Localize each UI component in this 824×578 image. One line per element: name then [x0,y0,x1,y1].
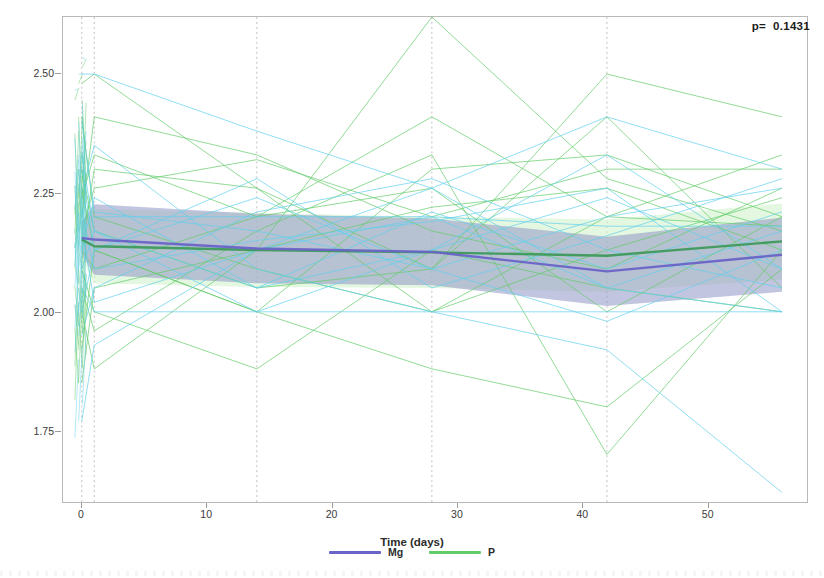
y-tick-mark-2 [55,193,61,194]
y-tick-label-2: 2.25 [26,187,54,199]
chart-legend: Mg P [0,546,824,558]
plot-canvas [63,17,807,502]
x-tick-label-5: 50 [702,508,714,520]
legend-swatch-mg [329,551,381,554]
plot-area [62,16,808,503]
x-tick-label-3: 30 [451,508,463,520]
x-tick-mark-0 [81,503,82,508]
legend-swatch-p [429,551,481,554]
x-tick-label-0: 0 [78,508,84,520]
baseline-segment-16-0 [75,359,79,437]
y-tick-mark-1 [55,312,61,313]
y-tick-label-3: 2.50 [26,67,54,79]
p-value-annotation: p= 0.1431 [752,20,810,32]
legend-item-mg: Mg [329,546,403,558]
scan-artifact [0,571,824,576]
legend-label-mg: Mg [388,546,403,558]
x-tick-label-2: 20 [326,508,338,520]
baseline-segment-14-2 [82,57,86,59]
x-tick-mark-2 [332,503,333,508]
legend-item-p: P [429,546,495,558]
y-tick-label-1: 2.00 [26,306,54,318]
baseline-segment-0-2 [82,60,86,67]
x-tick-mark-3 [457,503,458,508]
y-tick-label-0: 1.75 [26,425,54,437]
x-tick-label-4: 40 [576,508,588,520]
x-tick-mark-4 [582,503,583,508]
legend-label-p: P [488,546,495,558]
x-tick-label-1: 10 [200,508,212,520]
x-tick-mark-5 [708,503,709,508]
y-tick-mark-3 [55,73,61,74]
y-axis-ticks: 1.752.002.252.50 [0,0,54,578]
x-tick-mark-1 [206,503,207,508]
y-tick-mark-0 [55,431,61,432]
chart-figure: Serum magnesium levels 1.752.002.252.50 … [0,0,824,578]
